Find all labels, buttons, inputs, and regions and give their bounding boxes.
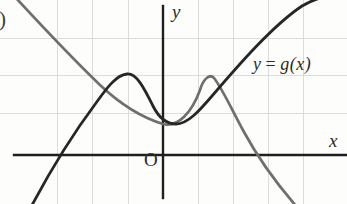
gray-curve (16, 0, 296, 204)
curve-equation-label: y=g(x) (253, 55, 311, 73)
origin-label: O (144, 150, 158, 169)
curve-label-equals: = (262, 54, 281, 74)
graph-figure: ) y x O y=g(x) (0, 0, 347, 204)
y-axis-label: y (172, 2, 180, 21)
x-axis-label: x (329, 131, 337, 150)
graph-canvas (0, 0, 347, 204)
stray-paren-label: ) (0, 9, 6, 30)
dark-curve (31, 0, 332, 204)
axes (14, 6, 347, 198)
grid-lines (0, 0, 347, 204)
curve-label-y: y (253, 54, 262, 74)
curve-label-gx: g(x) (280, 54, 311, 74)
